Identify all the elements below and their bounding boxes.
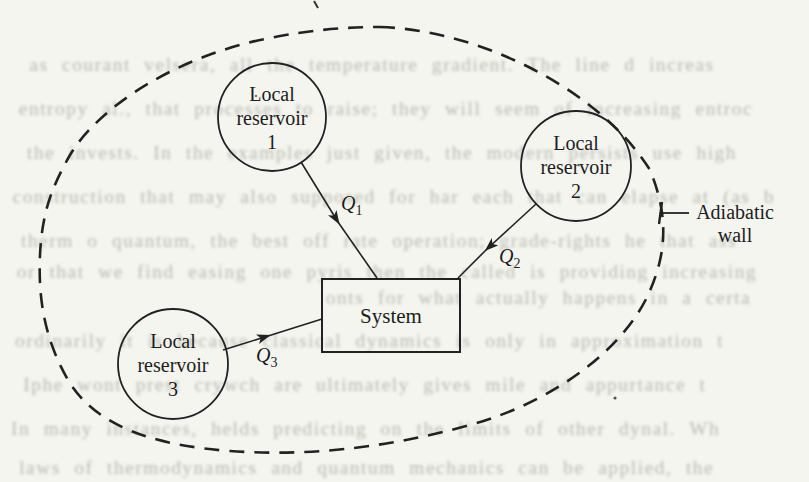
reservoir2-label-line1: Local bbox=[511, 131, 641, 155]
q3-symbol: Q bbox=[256, 344, 270, 366]
reservoir1-label-line2: reservoir bbox=[207, 106, 337, 130]
system-label: System bbox=[322, 279, 460, 352]
reservoir3-label-line3: 3 bbox=[108, 377, 238, 401]
adiabatic-wall-label-line2: wall bbox=[687, 224, 783, 247]
speck-mark bbox=[314, 1, 318, 8]
reservoir1-label-line1: Local bbox=[207, 82, 337, 106]
reservoir3-label: Local reservoir 3 bbox=[108, 329, 238, 401]
system-label-text: System bbox=[360, 304, 422, 328]
reservoir2-label: Local reservoir 2 bbox=[511, 131, 641, 203]
figure-page: as courant velsera, all the temperature … bbox=[0, 0, 809, 482]
reservoir1-label: Local reservoir 1 bbox=[207, 82, 337, 154]
q1-flow-arrow bbox=[301, 162, 338, 222]
q1-subscript: 1 bbox=[355, 203, 362, 218]
q3-subscript: 3 bbox=[270, 355, 277, 370]
reservoir3-label-line1: Local bbox=[108, 329, 238, 353]
q2-flow-arrow bbox=[487, 204, 536, 249]
reservoir1-label-line3: 1 bbox=[207, 130, 337, 154]
q2-label: Q2 bbox=[499, 246, 520, 269]
q1-label: Q1 bbox=[341, 193, 362, 216]
q1-symbol: Q bbox=[341, 192, 355, 214]
speck-mark bbox=[613, 396, 616, 399]
q3-label: Q3 bbox=[256, 345, 277, 368]
reservoir2-label-line2: reservoir bbox=[511, 155, 641, 179]
q2-symbol: Q bbox=[499, 245, 513, 267]
q2-flow-line bbox=[458, 249, 487, 278]
q2-subscript: 2 bbox=[513, 256, 520, 271]
q3-flow-line bbox=[268, 319, 322, 336]
reservoir3-label-line2: reservoir bbox=[108, 353, 238, 377]
adiabatic-wall-label: Adiabatic wall bbox=[687, 201, 783, 247]
reservoir2-label-line3: 2 bbox=[511, 179, 641, 203]
q1-flow-line bbox=[338, 222, 377, 278]
adiabatic-wall-label-line1: Adiabatic bbox=[687, 201, 783, 224]
